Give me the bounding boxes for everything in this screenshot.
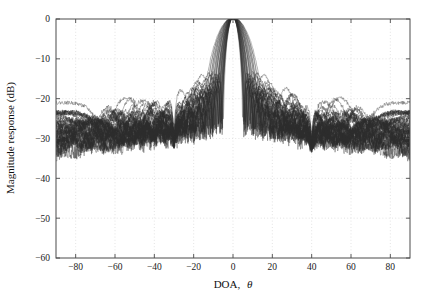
x-tick-label: −20 [186,262,201,272]
y-tick-label: −30 [35,134,50,144]
x-tick-label: 20 [268,262,278,272]
y-tick-label: −60 [35,253,50,263]
x-tick-label: −80 [68,262,83,272]
y-tick-label: −50 [35,214,50,224]
theta-symbol: θ [247,278,253,290]
y-tick-label: 0 [45,14,50,24]
y-tick-label: −20 [35,94,50,104]
x-tick-label: −40 [147,262,162,272]
x-tick-label: −60 [108,262,123,272]
y-tick-label: −40 [35,174,50,184]
beampattern-chart: −80−60−40−20020406080 0−10−20−30−40−50−6… [0,0,436,298]
x-axis-title-text: DOA, [214,278,241,290]
x-tick-label: 0 [231,262,236,272]
x-axis-title: DOA, θ [214,278,253,290]
y-tick-label: −10 [35,54,50,64]
x-tick-label: 40 [307,262,317,272]
x-tick-label: 60 [346,262,356,272]
x-tick-label: 80 [386,262,396,272]
y-axis-title: Magnitude response (dB) [4,82,17,194]
figure-container: −80−60−40−20020406080 0−10−20−30−40−50−6… [0,0,436,298]
